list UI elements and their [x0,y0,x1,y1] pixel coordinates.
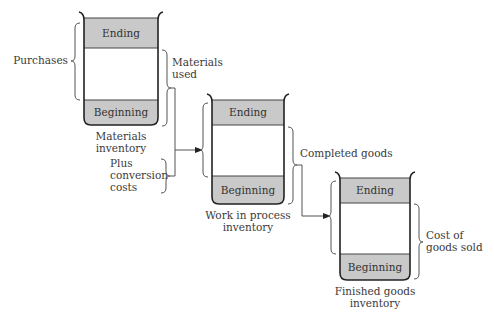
finished-caption-line1: Finished goods [335,285,416,297]
materials-used-line1: Materials [172,56,223,68]
conversion-costs-line2: conversion [110,169,168,181]
finished-caption-line2: inventory [350,297,401,309]
purchases-brace [71,23,80,100]
materials-beginning-label: Beginning [94,106,149,118]
cogs-brace [414,204,423,279]
completed-goods-label: Completed goods [300,147,393,159]
completed-goods-brace [288,127,297,204]
connector-to-wip [170,88,202,176]
conversion-costs-line1: Plus [110,157,133,169]
cost-of-goods-sold-annotation: Cost of goods sold [414,204,483,279]
conversion-costs-line3: costs [110,181,137,193]
arrow-to-finished [297,165,330,216]
materials-inventory-container: Ending Beginning Materials inventory [79,12,163,154]
connector-to-finished [297,165,330,216]
wip-input-brace [200,103,208,177]
materials-caption-line1: Materials [96,130,147,142]
purchases-label: Purchases [13,54,68,66]
finished-goods-inventory-container: Ending Beginning Finished goods inventor… [335,172,416,309]
wip-beginning-label: Beginning [221,184,276,196]
wip-caption-line2: inventory [223,221,274,233]
wip-ending-label: Ending [229,106,267,118]
wip-inventory-container: Ending Beginning Work in process invento… [205,94,291,233]
cogs-line2: goods sold [426,241,483,253]
cogs-line1: Cost of [426,229,465,241]
finished-beginning-label: Beginning [348,261,403,273]
materials-ending-label: Ending [102,27,140,39]
inventory-flow-diagram: Ending Beginning Materials inventory Pur… [0,0,494,321]
wip-caption-line1: Work in process [205,209,291,221]
materials-used-line2: used [172,68,197,80]
finished-ending-label: Ending [356,184,394,196]
plus-conversion-costs-annotation: Plus conversion costs [110,157,170,193]
purchases-annotation: Purchases [13,23,80,100]
materials-used-brace [162,50,171,126]
finished-input-brace [328,181,336,254]
materials-caption-line2: inventory [96,142,147,154]
